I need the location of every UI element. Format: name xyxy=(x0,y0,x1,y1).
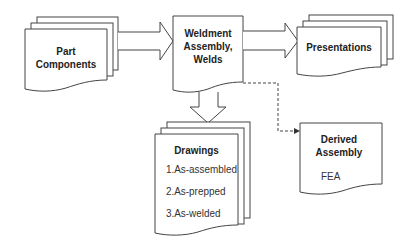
part-components-label: Part Components xyxy=(29,45,103,71)
dashed-connector xyxy=(243,83,296,131)
weldment-label: Weldment Assembly, Welds xyxy=(177,27,240,66)
drawings-item-3: 3.As-welded xyxy=(166,207,247,220)
derived-label: Derived Assembly xyxy=(304,133,374,159)
weldment-line2: Assembly, xyxy=(177,40,240,53)
presentations-label: Presentations xyxy=(301,41,377,54)
dashed-arrowhead-icon xyxy=(294,128,300,134)
arrow-part-to-weldment xyxy=(118,22,173,60)
weldment-line3: Welds xyxy=(177,53,240,66)
arrow-weldment-to-drawings xyxy=(190,92,226,123)
part-components-line2: Components xyxy=(29,58,103,71)
drawings-title: Drawings xyxy=(159,144,234,157)
derived-line2: Assembly xyxy=(304,146,374,159)
arrow-weldment-to-presentations xyxy=(243,23,298,58)
derived-line1: Derived xyxy=(304,133,374,146)
part-components-line1: Part xyxy=(29,45,103,58)
derived-sub: FEA xyxy=(321,170,357,183)
drawings-item-1: 1.As-assembled xyxy=(166,163,247,176)
weldment-line1: Weldment xyxy=(177,27,240,40)
drawings-item-2: 2.As-prepped xyxy=(166,185,247,198)
